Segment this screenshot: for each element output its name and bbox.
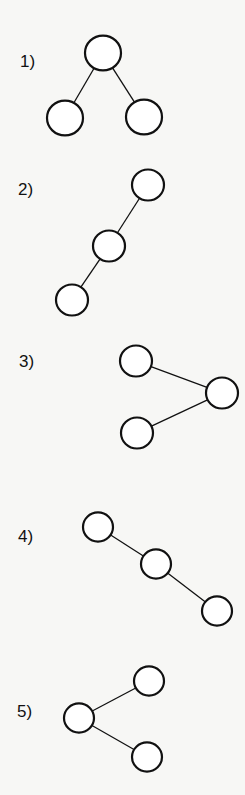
tree-edge xyxy=(81,259,100,287)
tree-diagram-2 xyxy=(56,169,164,315)
tree-node-circle xyxy=(93,230,125,261)
tree-node-circle xyxy=(132,742,162,771)
tree-diagram-4 xyxy=(83,512,232,625)
tree-node-circle xyxy=(206,377,238,408)
tree-node-circle xyxy=(202,596,232,625)
tree-diagrams-canvas xyxy=(0,0,245,795)
tree-node-circle xyxy=(141,549,171,578)
tree-edge xyxy=(168,573,205,602)
tree-node-circle xyxy=(121,417,153,448)
tree-edge xyxy=(151,367,207,388)
tree-edge xyxy=(74,69,94,103)
tree-diagram-5 xyxy=(64,666,164,771)
tree-node-circle xyxy=(85,36,121,71)
tree-node-circle xyxy=(83,512,113,541)
tree-edge xyxy=(92,725,134,749)
tree-node-circle xyxy=(134,666,164,695)
tree-edge xyxy=(151,400,207,426)
tree-node-circle xyxy=(126,100,162,135)
tree-node-circle xyxy=(56,284,88,315)
tree-node-circle xyxy=(47,101,83,136)
tree-node-circle xyxy=(132,169,164,200)
tree-diagram-3 xyxy=(120,345,238,448)
tree-node-circle xyxy=(120,345,152,376)
tree-edge xyxy=(92,688,135,711)
tree-edge xyxy=(118,198,140,232)
tree-diagram-1 xyxy=(47,36,162,136)
tree-edge xyxy=(111,535,144,556)
tree-node-circle xyxy=(64,703,94,732)
tree-edge xyxy=(113,68,135,102)
